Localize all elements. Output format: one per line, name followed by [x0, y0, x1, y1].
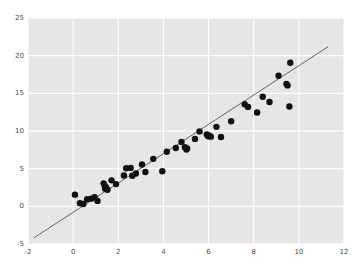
scatter-point	[128, 165, 134, 171]
scatter-plot	[28, 18, 344, 244]
scatter-point	[133, 170, 139, 176]
scatter-point	[254, 109, 260, 115]
scatter-point	[284, 82, 290, 88]
scatter-point	[192, 136, 198, 142]
figure-canvas: -50510152025 -2024681012	[0, 0, 358, 270]
y-tick-label: -5	[0, 241, 24, 248]
scatter-point	[178, 139, 184, 145]
x-tick-label: 4	[161, 249, 165, 256]
scatter-point	[208, 133, 214, 139]
scatter-point	[286, 103, 292, 109]
scatter-point	[184, 145, 190, 151]
scatter-point	[159, 168, 165, 174]
scatter-point	[139, 161, 145, 167]
x-tick-label: 0	[71, 249, 75, 256]
scatter-point	[142, 169, 148, 175]
scatter-point	[260, 94, 266, 100]
x-tick-label: 10	[294, 249, 303, 256]
scatter-point	[72, 191, 78, 197]
scatter-point	[266, 99, 272, 105]
scatter-point	[218, 134, 224, 140]
x-tick-label: -2	[25, 249, 32, 256]
y-tick-label: 0	[0, 203, 24, 210]
scatter-point	[213, 124, 219, 130]
y-tick-label: 15	[0, 90, 24, 97]
data-points	[72, 60, 294, 208]
x-tick-label: 8	[251, 249, 255, 256]
y-tick-label: 10	[0, 128, 24, 135]
scatter-point	[173, 145, 179, 151]
x-tick-label: 2	[116, 249, 120, 256]
plot-axes	[28, 18, 344, 244]
scatter-point	[164, 149, 170, 155]
y-tick-label: 5	[0, 165, 24, 172]
scatter-point	[121, 172, 127, 178]
scatter-point	[94, 198, 100, 204]
y-tick-label: 20	[0, 52, 24, 59]
scatter-point	[104, 187, 110, 193]
scatter-point	[275, 72, 281, 78]
scatter-point	[228, 118, 234, 124]
y-tick-label: 25	[0, 15, 24, 22]
x-tick-label: 12	[340, 249, 349, 256]
scatter-point	[113, 181, 119, 187]
scatter-point	[150, 156, 156, 162]
x-tick-label: 6	[206, 249, 210, 256]
scatter-point	[196, 128, 202, 134]
scatter-point	[245, 104, 251, 110]
gridlines	[28, 18, 344, 244]
scatter-point	[287, 60, 293, 66]
